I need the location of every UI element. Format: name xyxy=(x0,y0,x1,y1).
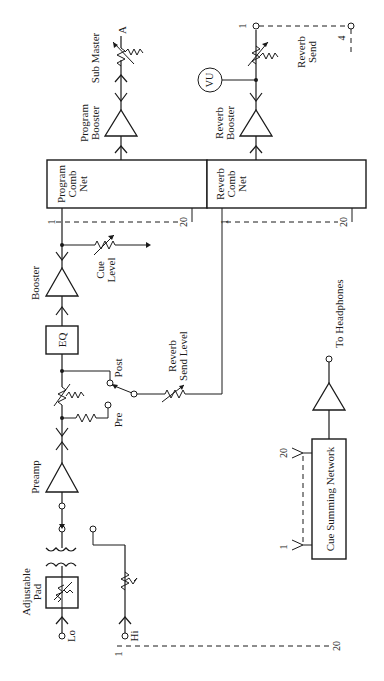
input-bus-end: 20 xyxy=(331,641,342,651)
preamp-label: Preamp xyxy=(29,460,41,494)
main-signal-path: EQ xyxy=(46,208,222,639)
booster-label: Booster xyxy=(29,266,41,301)
adjustable-pad-label-2: Pad xyxy=(31,583,43,600)
mixing-console-channel-schematic: EQ 1 20 1 2 xyxy=(0,0,384,681)
transformer-primary-icon xyxy=(46,563,76,566)
booster-amplifier xyxy=(46,268,78,296)
reverb-send-end: 4 xyxy=(336,36,347,41)
sub-master-label: Sub Master xyxy=(89,32,101,83)
cue-input-20-arrow-icon xyxy=(292,448,303,458)
cue-output-path: Cue Summing Network 20 1 xyxy=(278,356,346,559)
program-bus-end: 20 xyxy=(178,217,189,227)
program-booster-amplifier xyxy=(105,110,137,136)
combining-networks: 1 20 1 20 xyxy=(46,160,366,227)
cue-input-start: 1 xyxy=(278,545,289,550)
headphones-label: To Headphones xyxy=(333,279,345,348)
transformer-secondary-icon xyxy=(46,548,76,551)
vu-meter-label: VU xyxy=(204,72,215,87)
reverb-send-label-2: Send xyxy=(306,41,318,64)
channel-fader-icon xyxy=(58,387,66,405)
reverb-send-end-terminal xyxy=(348,23,354,29)
preamp-input-terminal xyxy=(59,503,65,509)
hi-output-terminal xyxy=(90,526,96,532)
hi-input-label: Hi xyxy=(128,631,140,642)
program-booster-label-2: Booster xyxy=(89,106,101,141)
program-comb-net-label-3: Net xyxy=(77,176,89,192)
preamp-amplifier xyxy=(46,463,78,492)
program-output-path xyxy=(105,36,143,160)
reverb-send-level-label-2: Send Level xyxy=(177,331,189,381)
post-label: Post xyxy=(112,359,124,378)
reverb-comb-net-label-3: Net xyxy=(236,176,248,192)
headphones-output-terminal xyxy=(326,356,332,362)
headphone-amplifier xyxy=(313,383,345,410)
cue-level-resistor-icon xyxy=(95,241,115,249)
cue-level-label-2: Level xyxy=(105,257,117,282)
input-bus: 1 20 xyxy=(113,641,342,657)
program-bus-start: 1 xyxy=(46,220,57,225)
cue-input-1-arrow-icon xyxy=(292,540,303,550)
reverb-booster-label-2: Booster xyxy=(224,106,236,141)
sub-master-output-label: A xyxy=(116,26,128,34)
input-bus-start: 1 xyxy=(113,652,124,657)
eq-label: EQ xyxy=(56,333,68,348)
lo-input-label: Lo xyxy=(65,629,77,642)
pre-terminal xyxy=(105,402,111,408)
switch-common-terminal xyxy=(131,391,137,397)
reverb-send-start: 1 xyxy=(237,24,248,29)
reverb-bus-end: 20 xyxy=(338,217,349,227)
cue-out-arrow-icon xyxy=(146,242,151,248)
cue-input-end: 20 xyxy=(278,448,289,458)
pre-resistor-icon xyxy=(76,414,96,422)
reverb-bus-start: 1 xyxy=(219,220,230,225)
reverb-booster-amplifier xyxy=(240,110,272,136)
hi-input-path xyxy=(90,526,137,639)
cue-summing-network-label: Cue Summing Network xyxy=(324,446,336,551)
pre-label: Pre xyxy=(112,413,124,428)
reverb-send-terminal xyxy=(253,23,259,29)
